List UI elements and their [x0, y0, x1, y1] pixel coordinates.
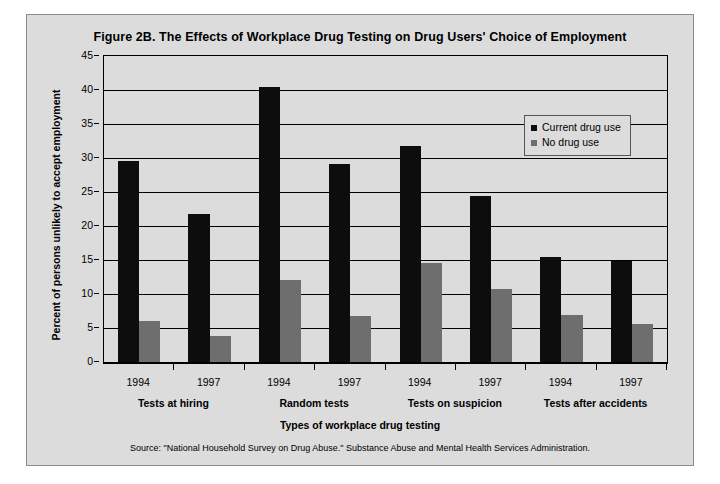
bar-current-drug-use — [611, 261, 632, 362]
gridline — [104, 192, 667, 193]
x-tick-mark — [314, 364, 315, 370]
y-tick-label: 20 — [81, 219, 93, 231]
x-axis-title: Types of workplace drug testing — [27, 419, 693, 431]
bar-no-drug-use — [280, 280, 301, 362]
x-axis: 19941997Tests at hiring19941997Random te… — [103, 364, 668, 424]
legend-item-label: No drug use — [542, 135, 599, 150]
x-group-label: Tests at hiring — [138, 397, 209, 409]
x-year-label: 1994 — [549, 376, 572, 388]
chart-legend: Current drug useNo drug use — [524, 115, 631, 156]
x-tick-mark — [244, 364, 245, 370]
y-tick-label: 45 — [81, 49, 93, 61]
y-tick-label: 0 — [87, 355, 93, 367]
bar-current-drug-use — [540, 257, 561, 362]
legend-item: Current drug use — [531, 120, 621, 135]
y-tick-mark — [94, 157, 99, 158]
bar-current-drug-use — [188, 214, 209, 362]
square-marker-icon — [531, 140, 537, 146]
x-group-label: Tests after accidents — [544, 397, 648, 409]
y-tick-label: 40 — [81, 83, 93, 95]
y-tick-label: 5 — [87, 321, 93, 333]
bar-current-drug-use — [470, 196, 491, 362]
y-tick-label: 30 — [81, 151, 93, 163]
x-year-label: 1994 — [127, 376, 150, 388]
bar-no-drug-use — [421, 263, 442, 362]
bar-no-drug-use — [491, 289, 512, 362]
bar-current-drug-use — [400, 146, 421, 362]
gridline — [104, 90, 667, 91]
figure-frame: Figure 2B. The Effects of Workplace Drug… — [26, 14, 694, 466]
y-tick-mark — [94, 361, 99, 362]
x-tick-mark — [173, 364, 174, 370]
plot-area — [103, 55, 668, 364]
x-year-label: 1997 — [619, 376, 642, 388]
x-tick-mark — [385, 364, 386, 370]
x-tick-mark — [525, 364, 526, 370]
y-tick-label: 10 — [81, 287, 93, 299]
scanned-page: Figure 2B. The Effects of Workplace Drug… — [0, 0, 720, 484]
y-tick-label: 35 — [81, 117, 93, 129]
x-year-label: 1997 — [197, 376, 220, 388]
bar-current-drug-use — [329, 164, 350, 362]
x-tick-mark — [596, 364, 597, 370]
y-tick-mark — [94, 89, 99, 90]
square-marker-icon — [531, 125, 537, 131]
x-year-label: 1994 — [267, 376, 290, 388]
x-tick-mark — [666, 364, 667, 370]
x-tick-mark — [455, 364, 456, 370]
gridline — [104, 158, 667, 159]
bar-no-drug-use — [561, 315, 582, 362]
x-year-label: 1997 — [338, 376, 361, 388]
y-tick-label: 25 — [81, 185, 93, 197]
y-axis-title: Percent of persons unlikely to accept em… — [50, 85, 62, 345]
legend-item-label: Current drug use — [542, 120, 621, 135]
legend-item: No drug use — [531, 135, 621, 150]
y-tick-mark — [94, 55, 99, 56]
bar-no-drug-use — [139, 321, 160, 362]
y-tick-mark — [94, 327, 99, 328]
x-group-label: Random tests — [279, 397, 348, 409]
x-year-label: 1994 — [408, 376, 431, 388]
y-tick-label: 15 — [81, 253, 93, 265]
bar-current-drug-use — [259, 87, 280, 362]
y-tick-mark — [94, 293, 99, 294]
x-group-label: Tests on suspicion — [408, 397, 502, 409]
y-axis: 051015202530354045 — [67, 55, 99, 364]
y-tick-mark — [94, 123, 99, 124]
bar-current-drug-use — [118, 161, 139, 362]
y-tick-mark — [94, 259, 99, 260]
y-tick-mark — [94, 225, 99, 226]
y-tick-mark — [94, 191, 99, 192]
bar-no-drug-use — [210, 336, 231, 362]
source-note: Source: "National Household Survey on Dr… — [27, 443, 693, 453]
bar-no-drug-use — [632, 324, 653, 362]
x-year-label: 1997 — [478, 376, 501, 388]
chart-title: Figure 2B. The Effects of Workplace Drug… — [27, 30, 693, 44]
bar-no-drug-use — [350, 316, 371, 362]
